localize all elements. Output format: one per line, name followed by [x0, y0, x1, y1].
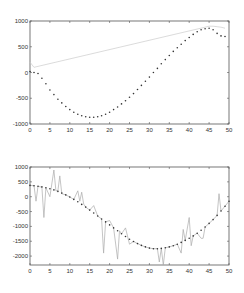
data-point: [216, 33, 218, 35]
data-point: [169, 55, 171, 57]
data-point: [73, 111, 75, 113]
data-point: [145, 81, 147, 83]
data-point: [49, 89, 51, 91]
data-point: [157, 68, 159, 70]
data-point: [200, 230, 202, 232]
data-point: [188, 37, 190, 39]
data-point: [165, 59, 167, 61]
data-point: [41, 77, 43, 79]
data-point: [85, 116, 87, 118]
data-point: [177, 243, 179, 245]
x-tick-label: 35: [166, 127, 173, 133]
data-point: [77, 113, 79, 115]
data-point: [204, 28, 206, 30]
y-tick-label: 1000: [15, 18, 29, 24]
y-tick-label: -1500: [13, 238, 29, 244]
data-point: [97, 215, 99, 217]
data-point: [129, 96, 131, 98]
data-point: [53, 189, 55, 191]
data-point: [125, 236, 127, 238]
data-point: [133, 241, 135, 243]
x-tick-label: 50: [226, 268, 233, 274]
data-point: [212, 219, 214, 221]
data-point: [69, 196, 71, 198]
data-point: [188, 238, 190, 240]
data-point: [113, 227, 115, 229]
data-point: [196, 232, 198, 234]
x-tick-label: 50: [226, 127, 233, 133]
x-tick-label: 35: [166, 268, 173, 274]
x-tick-label: 5: [48, 268, 52, 274]
x-tick-label: 30: [146, 268, 153, 274]
data-point: [77, 201, 79, 203]
data-point: [113, 109, 115, 111]
x-tick-label: 20: [106, 127, 113, 133]
data-point: [81, 204, 83, 206]
data-point: [192, 34, 194, 36]
data-point: [29, 71, 31, 73]
data-point: [196, 31, 198, 33]
data-point: [149, 76, 151, 78]
x-tick-label: 10: [66, 268, 73, 274]
data-point: [121, 103, 123, 105]
data-point: [45, 187, 47, 189]
data-point: [101, 115, 103, 117]
data-point: [184, 240, 186, 242]
data-point: [180, 242, 182, 244]
data-point: [89, 117, 91, 119]
x-tick-label: 45: [206, 268, 213, 274]
x-tick-label: 15: [86, 127, 93, 133]
y-tick-label: -2000: [13, 253, 29, 259]
data-point: [65, 106, 67, 108]
y-tick-label: 0: [25, 70, 29, 76]
data-point: [145, 246, 147, 248]
data-point: [169, 246, 171, 248]
x-tick-label: 5: [48, 127, 52, 133]
data-point: [220, 35, 222, 37]
data-point: [65, 194, 67, 196]
data-point: [200, 29, 202, 31]
data-point: [33, 185, 35, 187]
y-tick-label: -500: [16, 209, 29, 215]
x-tick-label: 40: [186, 127, 193, 133]
data-point: [33, 72, 35, 74]
x-tick-label: 25: [126, 127, 133, 133]
series-line: [30, 170, 229, 265]
data-point: [61, 192, 63, 194]
data-point: [41, 186, 43, 188]
y-tick-label: 0: [25, 194, 29, 200]
data-point: [37, 73, 39, 75]
data-point: [204, 226, 206, 228]
x-tick-label: 10: [66, 127, 73, 133]
data-point: [141, 245, 143, 247]
data-point: [141, 85, 143, 87]
data-point: [105, 113, 107, 115]
data-point: [93, 117, 95, 119]
data-point: [224, 205, 226, 207]
data-point: [216, 215, 218, 217]
data-point: [97, 116, 99, 118]
data-point: [69, 109, 71, 111]
data-point: [57, 99, 59, 101]
x-tick-label: 40: [186, 268, 193, 274]
data-point: [45, 83, 47, 85]
x-tick-label: 45: [206, 127, 213, 133]
data-point: [93, 212, 95, 214]
data-point: [153, 248, 155, 250]
data-point: [137, 243, 139, 245]
data-point: [49, 188, 51, 190]
data-point: [109, 224, 111, 226]
data-point: [29, 185, 31, 187]
data-point: [61, 102, 63, 104]
data-point: [81, 115, 83, 117]
data-point: [73, 199, 75, 201]
data-point: [109, 111, 111, 113]
data-point: [184, 40, 186, 42]
data-point: [208, 27, 210, 29]
data-point: [125, 100, 127, 102]
y-tick-label: 500: [18, 179, 29, 185]
figure: 0510152025303540455010005000-500-1000 05…: [0, 0, 244, 293]
x-tick-label: 25: [126, 268, 133, 274]
data-point: [53, 94, 55, 96]
data-point: [192, 235, 194, 237]
